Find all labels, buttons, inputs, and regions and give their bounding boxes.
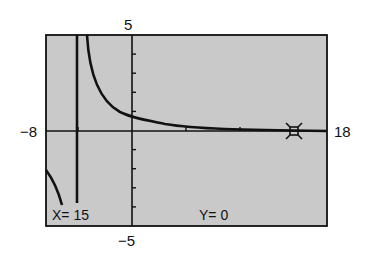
xmin-label: −8 xyxy=(20,124,37,139)
trace-y-readout: Y= 0 xyxy=(199,208,228,222)
ymax-label: 5 xyxy=(124,17,132,32)
ymin-label: −5 xyxy=(118,233,135,248)
trace-x-readout: X= 15 xyxy=(52,208,89,222)
xmax-label: 18 xyxy=(334,124,351,139)
